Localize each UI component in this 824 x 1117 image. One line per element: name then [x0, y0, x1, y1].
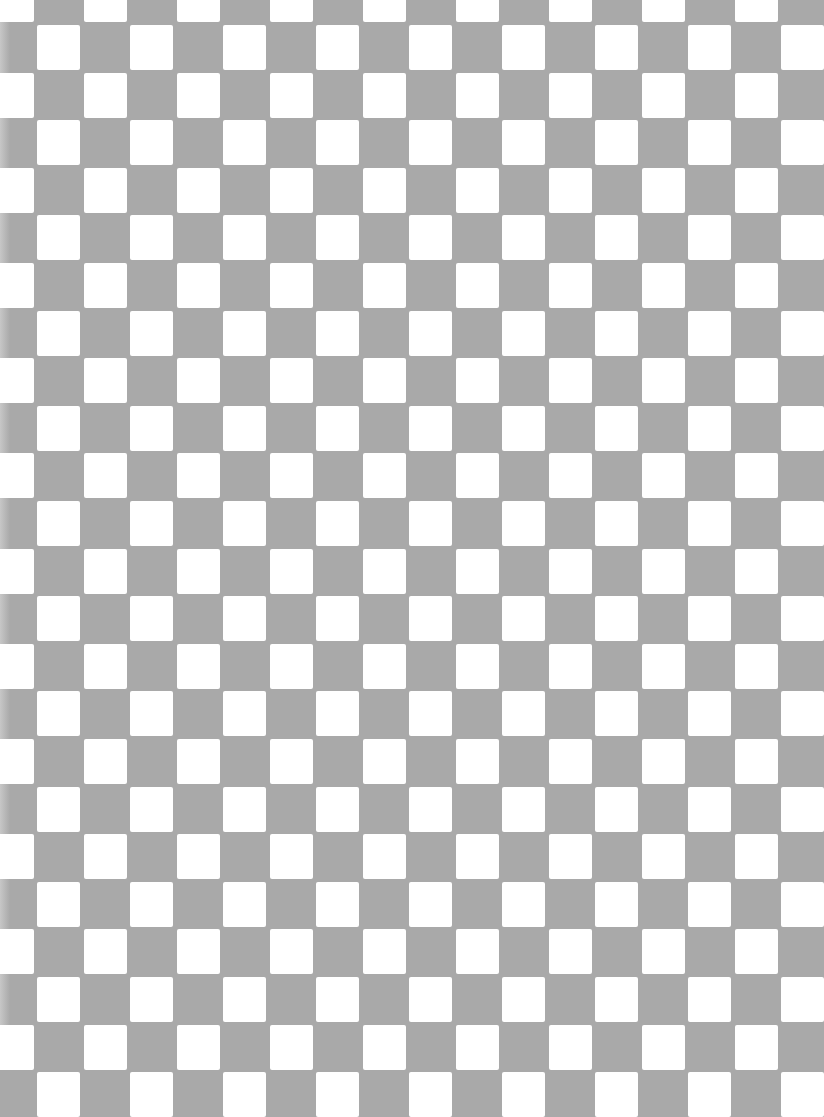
- light-square: [84, 834, 127, 879]
- light-square: [409, 882, 452, 927]
- light-square: [223, 311, 266, 356]
- light-square: [270, 929, 313, 974]
- light-square: [595, 691, 638, 736]
- checkerboard-pattern: [0, 0, 789, 1075]
- light-square: [549, 453, 592, 498]
- light-square: [37, 596, 80, 641]
- light-square: [735, 644, 778, 689]
- light-square: [0, 263, 34, 308]
- light-square: [84, 549, 127, 594]
- light-square: [363, 549, 406, 594]
- light-square: [642, 834, 685, 879]
- light-square: [316, 882, 359, 927]
- light-square: [409, 501, 452, 546]
- light-square: [642, 929, 685, 974]
- light-square: [316, 691, 359, 736]
- light-square: [595, 311, 638, 356]
- light-square: [316, 501, 359, 546]
- light-square: [84, 453, 127, 498]
- light-square: [549, 0, 592, 22]
- light-square: [595, 882, 638, 927]
- light-square: [84, 73, 127, 118]
- light-square: [688, 787, 731, 832]
- light-square: [642, 549, 685, 594]
- light-square: [735, 834, 778, 879]
- light-square: [223, 25, 266, 70]
- light-square: [688, 215, 731, 260]
- light-square: [177, 929, 220, 974]
- light-square: [781, 977, 824, 1022]
- light-square: [223, 596, 266, 641]
- light-square: [37, 882, 80, 927]
- light-square: [37, 977, 80, 1022]
- light-square: [223, 787, 266, 832]
- light-square: [595, 1072, 638, 1117]
- light-square: [688, 25, 731, 70]
- light-square: [642, 168, 685, 213]
- light-square: [781, 1072, 824, 1117]
- light-square: [223, 501, 266, 546]
- light-square: [502, 311, 545, 356]
- light-square: [735, 739, 778, 784]
- light-square: [37, 1072, 80, 1117]
- light-square: [84, 644, 127, 689]
- light-square: [37, 691, 80, 736]
- light-square: [316, 406, 359, 451]
- light-square: [270, 739, 313, 784]
- light-square: [688, 120, 731, 165]
- light-square: [223, 1072, 266, 1117]
- light-square: [270, 263, 313, 308]
- light-square: [549, 263, 592, 308]
- light-square: [688, 311, 731, 356]
- light-square: [688, 691, 731, 736]
- light-square: [549, 739, 592, 784]
- light-square: [270, 644, 313, 689]
- light-square: [642, 644, 685, 689]
- light-square: [642, 1025, 685, 1070]
- light-square: [316, 120, 359, 165]
- light-square: [735, 1025, 778, 1070]
- light-square: [456, 263, 499, 308]
- light-square: [456, 644, 499, 689]
- light-square: [270, 453, 313, 498]
- light-square: [130, 25, 173, 70]
- light-square: [735, 0, 778, 22]
- light-square: [456, 739, 499, 784]
- light-square: [84, 0, 127, 22]
- light-square: [688, 977, 731, 1022]
- light-square: [316, 596, 359, 641]
- light-square: [781, 691, 824, 736]
- light-square: [688, 596, 731, 641]
- light-square: [223, 691, 266, 736]
- light-square: [549, 73, 592, 118]
- light-square: [177, 263, 220, 308]
- light-square: [502, 406, 545, 451]
- light-square: [363, 1025, 406, 1070]
- light-square: [409, 977, 452, 1022]
- light-square: [130, 1072, 173, 1117]
- light-square: [502, 977, 545, 1022]
- light-square: [84, 358, 127, 403]
- light-square: [456, 0, 499, 22]
- light-square: [0, 929, 34, 974]
- light-square: [502, 691, 545, 736]
- light-square: [130, 501, 173, 546]
- light-square: [223, 120, 266, 165]
- light-square: [781, 25, 824, 70]
- light-square: [130, 596, 173, 641]
- light-square: [409, 311, 452, 356]
- light-square: [37, 311, 80, 356]
- light-square: [130, 215, 173, 260]
- light-square: [316, 215, 359, 260]
- light-square: [642, 453, 685, 498]
- light-square: [316, 1072, 359, 1117]
- light-square: [688, 882, 731, 927]
- light-square: [642, 0, 685, 22]
- light-square: [363, 0, 406, 22]
- light-square: [130, 787, 173, 832]
- light-square: [781, 787, 824, 832]
- light-square: [409, 787, 452, 832]
- light-square: [84, 1025, 127, 1070]
- light-square: [781, 120, 824, 165]
- light-square: [595, 25, 638, 70]
